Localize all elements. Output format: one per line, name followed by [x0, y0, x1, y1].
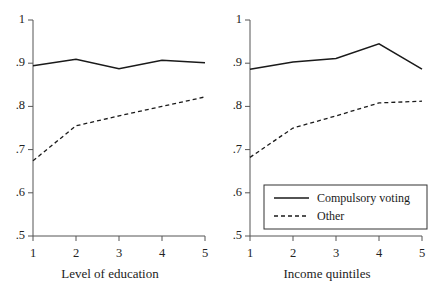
left-ytick-05: .5 [4, 229, 25, 242]
panel-income-quintiles: Compulsory voting Other 1 .9 .8 .7 .6 .5… [217, 0, 434, 292]
legend-label-compulsory-voting: Compulsory voting [317, 191, 410, 205]
left-y-ticks [28, 20, 33, 236]
right-ytick-08: .8 [221, 99, 242, 112]
left-x-ticks [33, 236, 205, 241]
left-ytick-06: .6 [4, 186, 25, 199]
right-y-ticks [245, 20, 250, 236]
right-x-ticks [250, 236, 422, 241]
right-xtick-1: 1 [240, 247, 260, 260]
right-xtick-3: 3 [326, 247, 346, 260]
left-axes [28, 20, 205, 241]
left-xtick-4: 4 [152, 247, 172, 260]
legend-label-other: Other [317, 209, 344, 223]
left-xtick-3: 3 [109, 247, 129, 260]
right-xtick-4: 4 [369, 247, 389, 260]
right-ytick-07: .7 [221, 143, 242, 156]
left-xtick-5: 5 [195, 247, 215, 260]
left-ytick-1: 1 [4, 13, 25, 26]
panel-level-of-education: 1 .9 .8 .7 .6 .5 1 2 3 4 5 Level of educ… [0, 0, 217, 292]
right-series-other [250, 101, 422, 157]
right-ytick-05: .5 [221, 229, 242, 242]
right-ytick-1: 1 [221, 13, 242, 26]
left-series-other [33, 97, 205, 161]
left-xtick-2: 2 [66, 247, 86, 260]
left-ytick-08: .8 [4, 99, 25, 112]
left-ytick-09: .9 [4, 56, 25, 69]
right-xtick-5: 5 [412, 247, 432, 260]
right-ytick-09: .9 [221, 56, 242, 69]
right-xtick-2: 2 [283, 247, 303, 260]
right-ytick-06: .6 [221, 186, 242, 199]
right-series-compulsory-voting [250, 44, 422, 69]
left-series-compulsory-voting [33, 59, 205, 69]
left-ytick-07: .7 [4, 143, 25, 156]
legend: Compulsory voting Other [264, 185, 427, 229]
left-xtick-1: 1 [23, 247, 43, 260]
right-x-axis-title: Income quintiles [227, 266, 427, 282]
left-x-axis-title: Level of education [10, 266, 210, 282]
